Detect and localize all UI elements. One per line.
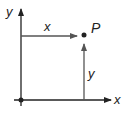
x-component-label: x [43,19,51,34]
origin-point [19,98,24,103]
y-axis-label: y [5,4,14,19]
coordinate-diagram: y x P x y [0,0,128,118]
point-p-label: P [91,20,101,36]
point-p [82,33,87,38]
x-axis-label: x [113,92,121,107]
y-component-label: y [87,66,96,81]
